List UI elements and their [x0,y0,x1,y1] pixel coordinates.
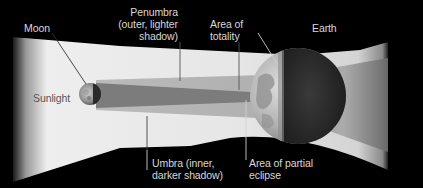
eclipse-diagram: Moon Sunlight Penumbra (outer, lighter s… [0,0,423,188]
penumbra-label: Penumbra (outer, lighter shadow) [118,6,178,42]
totality-label: Area of totality [210,18,243,42]
moon-label: Moon [24,22,50,34]
sunlight-label: Sunlight [33,92,70,104]
earth-label: Earth [312,22,337,34]
partial-eclipse-label: Area of partial eclipse [249,157,313,181]
umbra-label: Umbra (inner, darker shadow) [152,157,223,181]
